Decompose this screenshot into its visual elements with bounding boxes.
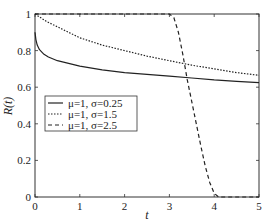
- y-tick-label: 0.6: [17, 81, 31, 93]
- y-tick-label: 0.2: [17, 154, 31, 166]
- x-tick-label: 1: [77, 200, 83, 212]
- x-axis-label: t: [145, 208, 149, 222]
- series-line-solid: [35, 32, 259, 82]
- series-line-dotted: [35, 14, 259, 75]
- x-tick-label: 3: [167, 200, 173, 212]
- y-tick-label: 0.4: [17, 118, 31, 130]
- y-tick-label: 1: [26, 8, 32, 20]
- reliability-chart: 012345 00.20.40.60.81 t R(t) μ=1, σ=0.25…: [0, 0, 264, 222]
- x-tick-label: 5: [256, 200, 262, 212]
- x-tick-label: 4: [211, 200, 217, 212]
- y-tick-label: 0.8: [17, 45, 31, 57]
- x-tick-label: 0: [32, 200, 38, 212]
- x-tick-label: 2: [122, 200, 128, 212]
- y-tick-label: 0: [26, 191, 32, 203]
- legend-item-3: μ=1, σ=2.5: [68, 119, 117, 131]
- legend: μ=1, σ=0.25 μ=1, σ=1.5 μ=1, σ=2.5: [45, 96, 137, 131]
- y-axis-label: R(t): [1, 97, 15, 117]
